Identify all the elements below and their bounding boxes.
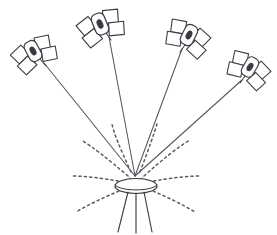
tripod-leg-right <box>144 192 152 232</box>
tripod-leg-left <box>118 192 128 232</box>
antenna-tripod <box>118 192 152 233</box>
satellite-constellation-diagram: Satellite constellation transmitting to … <box>0 0 277 235</box>
lobe-right-2 <box>144 140 190 176</box>
satellite-2 <box>75 5 129 50</box>
signal-beam-satellite-2 <box>109 37 135 176</box>
signal-beams-group <box>44 37 242 176</box>
satellite-4 <box>222 47 274 94</box>
signal-beam-satellite-1 <box>44 63 135 176</box>
ground-receiver-antenna <box>115 178 157 233</box>
lobe-right-4 <box>148 189 195 212</box>
lobe-right-3 <box>148 176 201 182</box>
lobe-left-3 <box>71 176 124 182</box>
lobe-left-4 <box>76 189 124 212</box>
signal-beam-satellite-3 <box>135 49 182 176</box>
lobe-right-1 <box>140 124 157 172</box>
signal-beam-satellite-4 <box>135 80 242 176</box>
antenna-dish <box>115 179 157 194</box>
satellite-1 <box>8 31 61 78</box>
satellite-3 <box>161 15 214 61</box>
diagram-canvas: Satellite constellation transmitting to … <box>0 0 277 235</box>
